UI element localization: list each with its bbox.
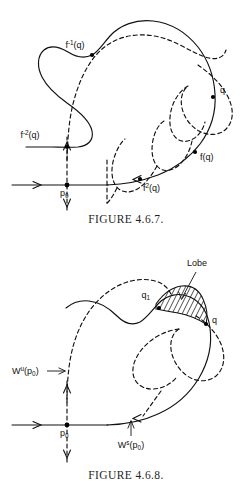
figure-4-6-7: f-1(q) f-2(q) q f(q) f2(q) p0 FIGURE 4.6… <box>0 0 252 240</box>
label-f-q: f(q) <box>200 152 214 162</box>
figure-4-6-8: Lobe q1 q Wu(p0) Ws(p0) p0 FIGURE 4.6.8. <box>0 240 252 500</box>
label-q1: q1 <box>141 290 150 301</box>
point-q <box>211 95 215 99</box>
label-wu-p0: Wu(p0) <box>12 365 39 377</box>
label-q: q <box>220 85 225 95</box>
unstable-right-lobe-2 <box>171 316 224 381</box>
label-f-inverse-q: f-1(q) <box>65 39 84 50</box>
label-p0-2: p0 <box>60 428 69 439</box>
stable-manifold-solid <box>26 21 215 185</box>
label-lobe: Lobe <box>187 258 207 268</box>
point-f-q <box>193 150 197 154</box>
point-p0 <box>65 183 70 188</box>
point-f-inverse-q <box>90 53 94 57</box>
label-f-2-q: f2(q) <box>143 182 160 193</box>
unstable-strand-lower-2 <box>143 391 161 416</box>
unstable-lobe-near-fq <box>170 86 205 141</box>
figure-4-6-8-canvas: Lobe q1 q Wu(p0) Ws(p0) p0 <box>0 240 252 468</box>
point-q-2 <box>204 322 208 326</box>
label-q-2: q <box>212 315 217 325</box>
point-p0-2 <box>65 423 70 428</box>
label-f-inverse-2-q: f-2(q) <box>20 129 39 140</box>
unstable-manifold-right-lobe <box>181 65 232 134</box>
lobe-pointer-line <box>182 272 196 298</box>
point-f-2-q <box>138 177 142 181</box>
point-f-inverse-2-q <box>65 145 69 149</box>
unstable-lobe-1 <box>152 121 192 171</box>
label-ws-p0: Ws(p0) <box>118 439 144 451</box>
label-p0: p0 <box>60 188 69 199</box>
figure-4-6-7-caption: FIGURE 4.6.7. <box>0 212 252 226</box>
point-q1 <box>157 306 161 310</box>
unstable-manifold-2 <box>67 279 171 402</box>
figure-4-6-7-canvas: f-1(q) f-2(q) q f(q) f2(q) p0 <box>0 0 252 212</box>
figure-4-6-8-caption: FIGURE 4.6.8. <box>0 468 252 482</box>
